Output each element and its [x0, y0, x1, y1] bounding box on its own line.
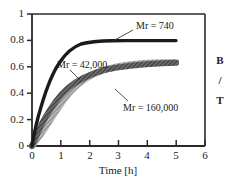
series-curve-mr-740 — [32, 41, 176, 146]
y-axis-label-line-slash: / — [211, 75, 229, 86]
figure-container: 1 0.8 0.6 0.4 0.2 0 0 1 2 3 4 5 6 Time [… — [0, 0, 231, 181]
x-tick-label-0: 0 — [24, 150, 40, 161]
series-annotation-mr-42000: Mr = 42,000 — [57, 60, 107, 70]
x-tick-label-3: 3 — [110, 150, 126, 161]
y-tick-label-0: 0 — [2, 140, 24, 151]
series-annotation-mr-740: Mr = 740 — [136, 21, 174, 31]
x-tick-label-6: 6 — [197, 150, 213, 161]
plot-frame — [32, 14, 205, 146]
series-annotation-mr-160000: Mr = 160,000 — [123, 103, 178, 113]
y-tick-label-0.4: 0.4 — [0, 87, 24, 98]
x-tick-label-1: 1 — [53, 150, 69, 161]
x-axis-title: Time [h] — [78, 165, 158, 176]
x-tick-label-2: 2 — [82, 150, 98, 161]
y-axis-label-line-b: B — [211, 55, 229, 66]
y-tick-label-1: 1 — [2, 8, 24, 19]
x-tick-label-5: 5 — [168, 150, 184, 161]
y-tick-label-0.2: 0.2 — [0, 114, 24, 125]
y-tick-label-0.6: 0.6 — [0, 61, 24, 72]
x-tick-label-4: 4 — [139, 150, 155, 161]
y-axis-label-line-t: T — [211, 95, 229, 106]
y-tick-label-0.8: 0.8 — [0, 34, 24, 45]
